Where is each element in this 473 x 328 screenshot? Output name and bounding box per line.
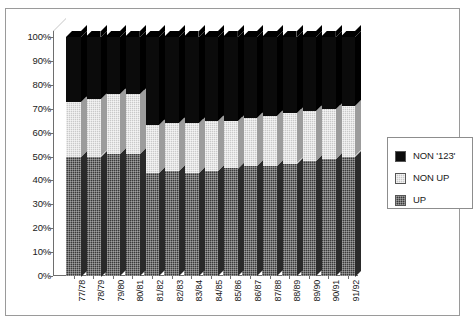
bar-segment-non-up: [66, 102, 81, 157]
bar-segment-up: [144, 173, 159, 276]
bar-segment-non-up: [125, 94, 140, 154]
bar-segment-side-face: [179, 165, 185, 276]
bar-column: [321, 37, 336, 276]
x-tick-label: 82/83: [176, 280, 185, 326]
x-tick-mark: [348, 276, 349, 279]
legend-item[interactable]: NON '123': [395, 145, 472, 167]
y-tick-label: 70%: [9, 104, 51, 114]
y-tick-mark: [49, 133, 53, 134]
x-tick-mark: [230, 276, 231, 279]
bar-segment-side-face: [316, 105, 322, 161]
bar-segment-non-123: [223, 37, 238, 121]
x-tick-mark: [328, 276, 329, 279]
legend-item-label: UP: [413, 195, 426, 205]
bar-column: [125, 37, 140, 276]
legend-item[interactable]: UP: [395, 189, 472, 211]
bar-segment-non-123: [86, 37, 101, 99]
x-tick-label: 85/86: [234, 280, 243, 326]
bar-top-cap: [340, 31, 355, 37]
bar-segment-side-face: [101, 151, 107, 277]
bar-segment-non-up: [144, 125, 159, 173]
y-tick-mark: [49, 276, 53, 277]
bar-column: [340, 37, 355, 276]
bar-top-cap: [203, 31, 218, 37]
y-tick-mark: [49, 252, 53, 253]
bar-segment-side-face: [355, 151, 361, 277]
bar-column: [66, 37, 81, 276]
y-tick-label: 0%: [9, 271, 51, 281]
bar-segment-side-face: [120, 88, 126, 154]
bar-segment-non-123: [144, 37, 159, 125]
plot-area: 0%10%20%30%40%50%60%70%80%90%100% 77/787…: [53, 31, 358, 276]
bar-segment-non-up: [321, 109, 336, 159]
y-tick-label: 80%: [9, 80, 51, 90]
bar-segment-non-123: [282, 37, 297, 113]
bar-segment-non-123: [184, 37, 199, 123]
bar-segment-up: [282, 164, 297, 276]
bar-column: [301, 37, 316, 276]
x-tick-mark: [93, 276, 94, 279]
bar-top-cap: [184, 31, 199, 37]
bar-segment-side-face: [257, 31, 263, 118]
light-gray-swatch-icon: [395, 173, 406, 184]
x-tick-mark: [172, 276, 173, 279]
bar-segment-side-face: [277, 160, 283, 276]
bar-segment-side-face: [238, 31, 244, 121]
x-tick-label: 86/87: [254, 280, 263, 326]
x-tick-label: 91/92: [352, 280, 361, 326]
bar-segment-side-face: [81, 31, 87, 102]
back-wall-edge: [53, 18, 66, 44]
x-tick-label: 90/91: [332, 280, 341, 326]
bar-segment-non-up: [262, 116, 277, 166]
bar-segment-non-123: [66, 37, 81, 102]
dark-gray-swatch-icon: [395, 195, 406, 206]
bar-segment-non-up: [105, 94, 120, 154]
bar-segment-side-face: [218, 115, 224, 171]
legend-item-label: NON UP: [413, 173, 449, 183]
bar-segment-side-face: [159, 119, 165, 173]
bar-segment-non-up: [282, 113, 297, 163]
bar-segment-side-face: [120, 31, 126, 94]
bar-top-cap: [86, 31, 101, 37]
x-tick-label: 78/79: [97, 280, 106, 326]
x-tick-mark: [191, 276, 192, 279]
bar-segment-non-123: [105, 37, 120, 94]
bar-segment-up: [321, 159, 336, 276]
x-tick-mark: [132, 276, 133, 279]
y-tick-mark: [49, 109, 53, 110]
bar-column: [262, 37, 277, 276]
bar-segment-side-face: [238, 115, 244, 169]
bar-top-cap: [282, 31, 297, 37]
bar-segment-side-face: [316, 155, 322, 276]
bar-column: [86, 37, 101, 276]
bar-segment-up: [164, 171, 179, 276]
x-tick-mark: [74, 276, 75, 279]
bar-segment-side-face: [336, 153, 342, 276]
bar-top-cap: [164, 31, 179, 37]
bar-column: [144, 37, 159, 276]
y-axis-line: [53, 31, 54, 276]
bar-column: [223, 37, 238, 276]
bar-segment-side-face: [257, 160, 263, 276]
bar-segment-side-face: [355, 100, 361, 156]
x-tick-mark: [113, 276, 114, 279]
x-tick-label: 83/84: [195, 280, 204, 326]
x-tick-mark: [289, 276, 290, 279]
legend-item[interactable]: NON UP: [395, 167, 472, 189]
bar-segment-side-face: [336, 103, 342, 159]
bar-segment-non-123: [301, 37, 316, 111]
bar-segment-side-face: [101, 93, 107, 156]
y-tick-mark: [49, 204, 53, 205]
bar-segment-side-face: [277, 110, 283, 166]
x-tick-label: 87/88: [274, 280, 283, 326]
chart-frame: 0%10%20%30%40%50%60%70%80%90%100% 77/787…: [5, 8, 460, 316]
bar-segment-side-face: [336, 31, 342, 109]
bar-segment-up: [223, 168, 238, 276]
bar-segment-non-up: [184, 123, 199, 173]
bar-top-cap: [66, 31, 81, 37]
bar-segment-up: [340, 157, 355, 277]
bar-segment-side-face: [140, 148, 146, 276]
bar-segment-side-face: [179, 31, 185, 123]
x-tick-label: 77/78: [78, 280, 87, 326]
y-tick-mark: [49, 61, 53, 62]
